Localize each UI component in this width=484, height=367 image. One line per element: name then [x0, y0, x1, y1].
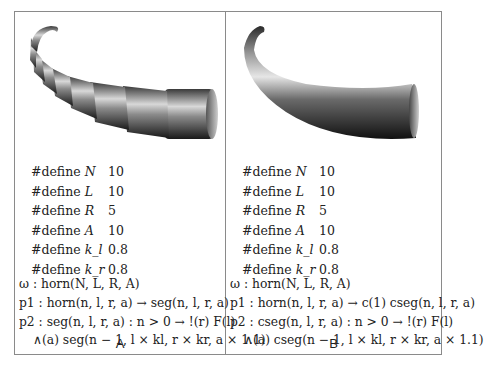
define-row: #define A 10 [31, 221, 128, 241]
define-value: 10 [319, 182, 335, 202]
define-block: #define N 10 #define L 10 #define R 5 #d… [31, 162, 128, 280]
define-keyword: #define k_l [31, 240, 108, 260]
define-keyword: #define A [31, 221, 108, 241]
define-keyword: #define R [31, 201, 108, 221]
panel-a: #define N 10 #define L 10 #define R 5 #d… [15, 12, 225, 354]
define-row: #define A 10 [242, 221, 339, 241]
define-row: #define R 5 [242, 201, 339, 221]
define-keyword: #define R [242, 201, 319, 221]
define-row: #define N 10 [242, 162, 339, 182]
define-row: #define k_l 0.8 [31, 240, 128, 260]
define-keyword: #define N [31, 162, 108, 182]
define-row: #define L 10 [31, 182, 128, 202]
define-value: 10 [108, 221, 124, 241]
define-value: 10 [319, 221, 335, 241]
define-value: 10 [319, 162, 335, 182]
define-row: #define k_l 0.8 [242, 240, 339, 260]
smooth-horn-render [226, 12, 441, 152]
define-value: 0.8 [108, 240, 128, 260]
axiom: ω : horn(N, L, R, A) [230, 275, 484, 294]
define-keyword: #define L [31, 182, 108, 202]
define-value: 5 [108, 201, 116, 221]
define-keyword: #define k_l [242, 240, 319, 260]
panel-b: #define N 10 #define L 10 #define R 5 #d… [226, 12, 441, 354]
define-row: #define L 10 [242, 182, 339, 202]
define-block: #define N 10 #define L 10 #define R 5 #d… [242, 162, 339, 280]
production-p1: p1 : horn(n, l, r, a) → c(1) cseg(n, l, … [230, 294, 484, 313]
define-row: #define R 5 [31, 201, 128, 221]
define-keyword: #define N [242, 162, 319, 182]
define-value: 10 [108, 182, 124, 202]
production-p2: p2 : cseg(n, l, r, a) : n > 0 → !(r) F(l… [230, 313, 484, 332]
define-keyword: #define L [242, 182, 319, 202]
define-value: 0.8 [319, 240, 339, 260]
panel-label: A [15, 336, 225, 351]
panel-label: B [226, 336, 441, 351]
define-value: 10 [108, 162, 124, 182]
define-value: 5 [319, 201, 327, 221]
segmented-horn-render [15, 12, 225, 152]
define-keyword: #define A [242, 221, 319, 241]
define-row: #define N 10 [31, 162, 128, 182]
